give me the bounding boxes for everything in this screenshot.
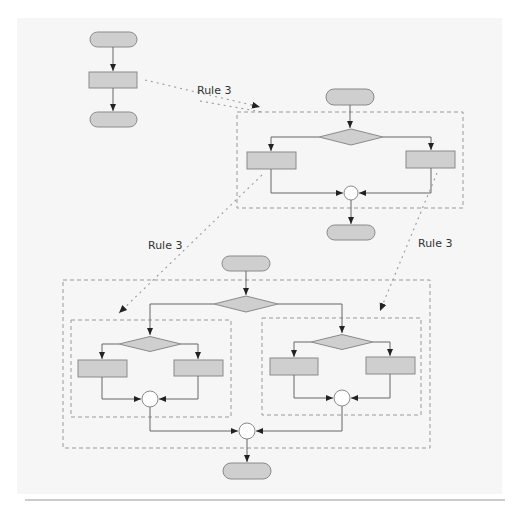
process-box-left xyxy=(247,152,296,169)
start-terminal xyxy=(90,32,137,47)
end-terminal xyxy=(90,112,137,127)
flowchart-diagram: Rule 3 Rule 3 Rule 3 xyxy=(0,0,520,508)
sequence-block xyxy=(89,32,137,127)
end-terminal xyxy=(223,463,271,479)
rule-label-right: Rule 3 xyxy=(418,237,452,250)
merge-node xyxy=(344,186,358,200)
start-terminal xyxy=(222,256,270,271)
start-terminal xyxy=(326,89,374,105)
end-terminal xyxy=(327,225,375,240)
left-process-box-b xyxy=(174,360,223,376)
rule-label-left: Rule 3 xyxy=(148,239,182,252)
left-merge-node xyxy=(142,391,158,407)
left-process-box-a xyxy=(78,360,127,377)
right-process-box-b xyxy=(366,357,415,374)
rule-label-top: Rule 3 xyxy=(197,84,231,97)
process-box xyxy=(89,72,137,88)
right-merge-node xyxy=(334,390,350,406)
right-process-box-a xyxy=(270,358,318,375)
final-merge-node xyxy=(239,423,255,439)
process-box-right xyxy=(406,151,455,168)
